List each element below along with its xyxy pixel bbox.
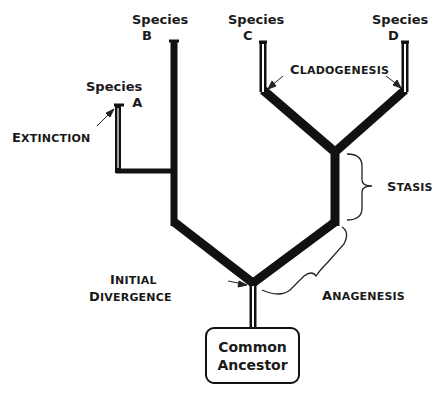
stasis-label: STASIS [387,179,433,194]
extinction-label: EXTINCTION [12,130,90,145]
initial-divergence-label-line1: INITIAL [110,272,157,287]
species-b-label: Species B [132,12,188,44]
branch-to-c [263,90,335,152]
species-a-label: Species A [86,79,142,111]
branch-left-arm [174,222,253,283]
stasis-brace [347,154,372,220]
branch-right-arm [253,222,335,283]
species-c-label: Species C [228,12,284,44]
initial-divergence-label-line2: DIVERGENCE [89,289,172,304]
anagenesis-brace [262,227,347,294]
common-ancestor-box: Common Ancestor [205,327,300,384]
species-d-label: Species D [372,12,428,44]
anagenesis-label: ANAGENESIS [322,288,405,303]
branch-to-d [335,90,405,152]
cladogenesis-label: CLADOGENESIS [290,62,389,77]
